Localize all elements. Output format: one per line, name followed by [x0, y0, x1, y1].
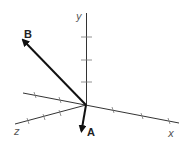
vector-a-arrow — [82, 105, 87, 131]
z-tick — [59, 110, 61, 116]
x-axis — [23, 92, 179, 124]
z-tick — [43, 114, 45, 120]
y-axis-label: y — [75, 11, 83, 22]
y-axis — [81, 13, 92, 105]
vector-b-label: B — [24, 28, 32, 40]
coordinate-diagram: y x z B A — [0, 0, 194, 150]
z-axis-label: z — [13, 126, 20, 137]
x-axis-label: x — [167, 128, 174, 139]
vector-a-label: A — [87, 126, 95, 138]
z-axis — [15, 105, 86, 124]
